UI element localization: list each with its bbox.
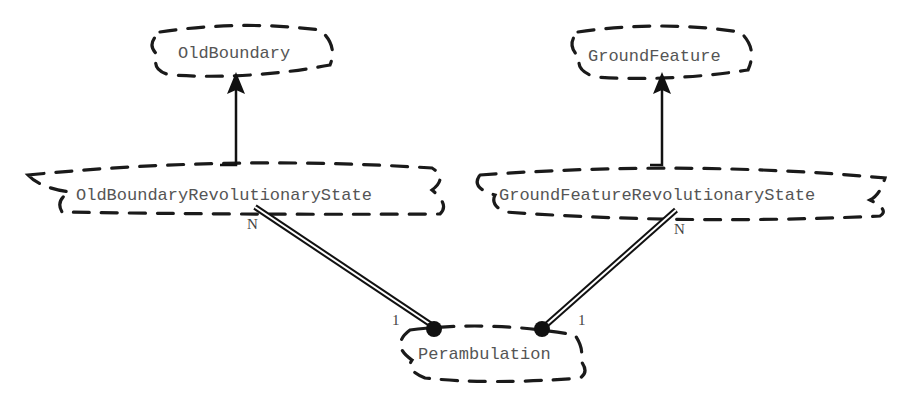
multiplicity-old-boundary-target: 1 xyxy=(392,313,400,328)
multiplicity-ground-feature-target: 1 xyxy=(578,313,586,328)
multiplicity-old-boundary-source: N xyxy=(247,217,258,232)
generalization-arrow-old-boundary xyxy=(220,72,245,165)
node-old-boundary-revolutionary-state: OldBoundaryRevolutionaryState xyxy=(76,187,372,204)
node-ground-feature-revolutionary-state: GroundFeatureRevolutionaryState xyxy=(499,187,815,204)
node-old-boundary: OldBoundary xyxy=(178,45,290,62)
node-perambulation: Perambulation xyxy=(418,346,551,363)
association-end-dot-icon xyxy=(534,321,550,337)
aggregation-link-old-boundary xyxy=(255,207,442,337)
node-ground-feature: GroundFeature xyxy=(588,48,721,65)
multiplicity-ground-feature-source: N xyxy=(674,222,685,237)
association-end-dot-icon xyxy=(426,321,442,337)
generalization-arrow-ground-feature xyxy=(650,72,671,165)
aggregation-link-ground-feature xyxy=(534,210,676,337)
